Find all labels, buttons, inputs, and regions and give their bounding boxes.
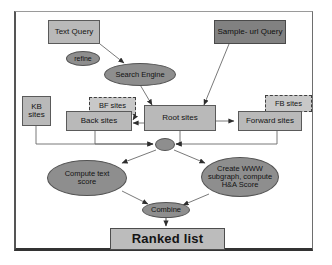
node-back-sites-label: Back sites	[81, 117, 117, 125]
node-compute-text-score-label: Compute text score	[65, 170, 110, 186]
edge-sample-url-to-root	[204, 44, 229, 105]
node-ranked-list[interactable]: Ranked list	[110, 228, 225, 250]
node-root-sites-label: Root sites	[162, 114, 198, 122]
node-search-engine-label: Search Engine	[115, 71, 164, 79]
node-root-sites[interactable]: Root sites	[144, 105, 216, 131]
node-fb-sites[interactable]: FB sites	[265, 95, 312, 112]
node-combine-label: Combine	[151, 206, 181, 214]
edge-forward-to-junction	[176, 131, 277, 144]
node-text-query[interactable]: Text Query	[48, 20, 100, 44]
node-kb-sites[interactable]: KB sites	[22, 96, 51, 126]
edge-junction-to-create-www	[174, 150, 205, 163]
edge-junction-to-compute-text	[122, 150, 156, 163]
node-compute-text-score[interactable]: Compute text score	[47, 160, 127, 196]
edge-root-to-junction	[176, 131, 180, 144]
node-forward-sites-label: Forward sites	[246, 117, 294, 125]
node-sample-url-query-label: Sample- url Query	[218, 28, 283, 36]
edge-text-query-to-search-engine	[100, 44, 124, 63]
edge-back-to-junction	[95, 131, 153, 144]
node-create-www-subgraph-label: Create WWW subgraph, compute H&A Score	[208, 165, 272, 189]
edge-compute-text-to-combine	[122, 191, 148, 204]
diagram-canvas: Text Query Sample- url Query refine Sear…	[0, 0, 332, 265]
node-combine[interactable]: Combine	[142, 202, 190, 218]
edge-search-engine-to-root	[139, 83, 152, 105]
node-kb-sites-label: KB sites	[28, 103, 44, 120]
node-forward-sites[interactable]: Forward sites	[238, 111, 302, 131]
node-refine-label: refine	[74, 55, 92, 62]
node-fb-sites-label: FB sites	[275, 100, 302, 108]
node-ranked-list-label: Ranked list	[132, 232, 204, 246]
node-junction[interactable]	[155, 138, 175, 151]
node-back-sites[interactable]: Back sites	[66, 111, 132, 131]
edge-create-www-to-combine	[183, 194, 209, 205]
node-bf-sites-label: BF sites	[99, 102, 126, 110]
edge-bf-to-back	[133, 115, 136, 120]
node-sample-url-query[interactable]: Sample- url Query	[214, 20, 286, 44]
node-text-query-label: Text Query	[55, 28, 94, 36]
node-create-www-subgraph[interactable]: Create WWW subgraph, compute H&A Score	[201, 157, 279, 197]
node-search-engine[interactable]: Search Engine	[104, 63, 176, 86]
node-refine[interactable]: refine	[66, 51, 100, 66]
